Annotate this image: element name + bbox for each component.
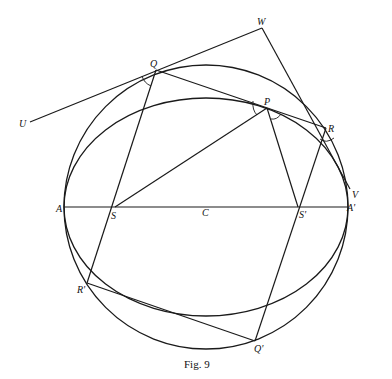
label-s: S xyxy=(111,210,116,221)
segment-r-q-prime xyxy=(255,128,326,341)
geometry-figure: W Q P R U V A S C S' A' R' Q' Fig. 9 xyxy=(0,0,392,379)
label-p: P xyxy=(263,96,270,107)
label-v: V xyxy=(352,189,360,200)
label-q: Q xyxy=(150,58,158,69)
angle-mark-p-right xyxy=(271,114,281,119)
label-a-prime: A' xyxy=(346,202,356,213)
segment-q-r-prime xyxy=(87,70,156,283)
label-c: C xyxy=(202,207,209,218)
label-r-prime: R' xyxy=(76,284,86,295)
figure-caption: Fig. 9 xyxy=(184,358,210,370)
label-u: U xyxy=(19,118,27,129)
label-w: W xyxy=(257,16,267,27)
segment-r-prime-q-prime xyxy=(87,283,255,341)
label-a: A xyxy=(55,203,63,214)
label-r: R xyxy=(327,123,334,134)
tangent-line-wv xyxy=(262,28,350,189)
segment-ps-prime xyxy=(267,108,298,207)
label-s-prime: S' xyxy=(299,209,307,220)
segment-sp xyxy=(115,108,267,207)
label-q-prime: Q' xyxy=(254,343,264,354)
